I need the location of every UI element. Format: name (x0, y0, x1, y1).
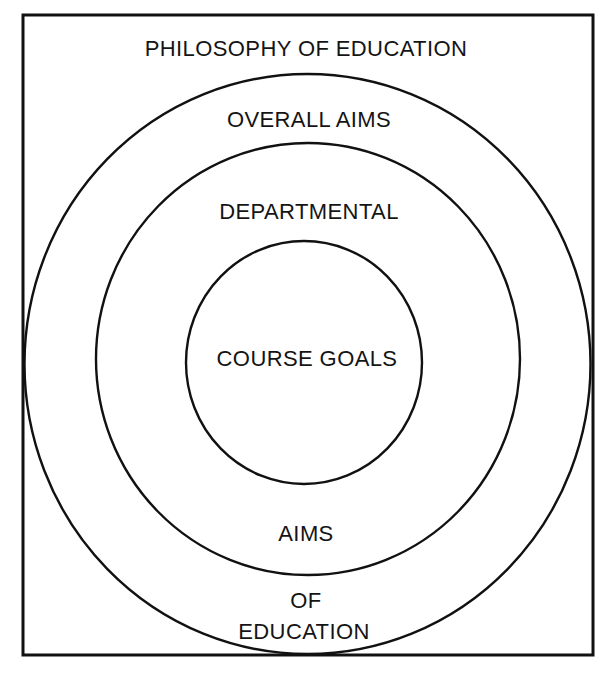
outer-ring-top-label: OVERALL AIMS (227, 107, 391, 132)
inner-ring-center-label: COURSE GOALS (217, 346, 398, 371)
title-philosophy-of-education: PHILOSOPHY OF EDUCATION (145, 36, 468, 61)
outer-ring-bottom-label-line1: OF (290, 588, 321, 613)
middle-ring-bottom-label: AIMS (278, 521, 333, 546)
nested-aims-diagram: PHILOSOPHY OF EDUCATION OVERALL AIMS DEP… (0, 0, 609, 674)
outer-ring-bottom-label-line2: EDUCATION (238, 619, 370, 644)
middle-ring-top-label: DEPARTMENTAL (219, 199, 399, 224)
